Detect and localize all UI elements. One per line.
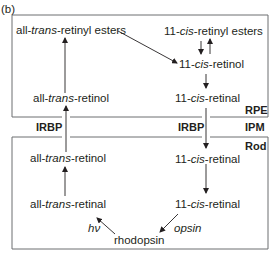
text-prefix: all- bbox=[30, 152, 45, 164]
text-italic: cis bbox=[195, 58, 209, 70]
text-prefix: all- bbox=[33, 92, 48, 104]
text-italic: cis bbox=[191, 198, 205, 210]
text-prefix: 11- bbox=[175, 153, 191, 165]
label-rod: Rod bbox=[245, 140, 266, 153]
text-italic: cis bbox=[180, 25, 194, 37]
text-suffix: -retinol bbox=[209, 58, 244, 70]
label-irbp-right: IRBP bbox=[178, 121, 204, 134]
text-prefix: all- bbox=[30, 198, 45, 210]
label-rpe: RPE bbox=[245, 104, 268, 117]
text-prefix: 11- bbox=[175, 198, 191, 210]
text-italic: trans bbox=[31, 24, 57, 36]
text-prefix: 11- bbox=[179, 58, 195, 70]
text-suffix: -retinal bbox=[205, 92, 240, 104]
panel-label: (b) bbox=[1, 3, 15, 16]
node-rpe-11cis-retinal: 11-cis-retinal bbox=[175, 92, 240, 105]
text-italic: trans bbox=[48, 92, 74, 104]
text-suffix: -retinol bbox=[74, 92, 109, 104]
text-suffix: -retinal bbox=[71, 198, 106, 210]
node-rod-all-trans-retinal: all-trans-retinal bbox=[30, 198, 106, 211]
text-suffix: -retinyl esters bbox=[57, 24, 126, 36]
label-light-hv: hν bbox=[88, 222, 100, 235]
node-rpe-all-trans-retinol: all-trans-retinol bbox=[33, 92, 109, 105]
label-opsin: opsin bbox=[174, 222, 202, 235]
text-suffix: -retinol bbox=[71, 152, 106, 164]
node-rod-all-trans-retinol: all-trans-retinol bbox=[30, 152, 106, 165]
text-suffix: -retinal bbox=[205, 153, 240, 165]
node-rod-11cis-retinal-bottom: 11-cis-retinal bbox=[175, 198, 240, 211]
node-rhodopsin: rhodopsin bbox=[114, 234, 165, 247]
label-irbp-left: IRBP bbox=[36, 121, 62, 134]
label-ipm: IPM bbox=[245, 121, 265, 134]
text-italic: cis bbox=[191, 92, 205, 104]
node-rpe-all-trans-retinyl-esters: all-trans-retinyl esters bbox=[16, 24, 126, 37]
text-italic: trans bbox=[45, 198, 71, 210]
text-suffix: -retinyl esters bbox=[194, 25, 263, 37]
text-italic: trans bbox=[45, 152, 71, 164]
text-prefix: 11- bbox=[164, 25, 180, 37]
node-rpe-11cis-retinol: 11-cis-retinol bbox=[179, 58, 244, 71]
text-prefix: all- bbox=[16, 24, 31, 36]
text-italic: cis bbox=[191, 153, 205, 165]
text-prefix: 11- bbox=[175, 92, 191, 104]
text-suffix: -retinal bbox=[205, 198, 240, 210]
node-rod-11cis-retinal-top: 11-cis-retinal bbox=[175, 153, 240, 166]
node-rpe-11cis-retinyl-esters: 11-cis-retinyl esters bbox=[164, 25, 263, 38]
